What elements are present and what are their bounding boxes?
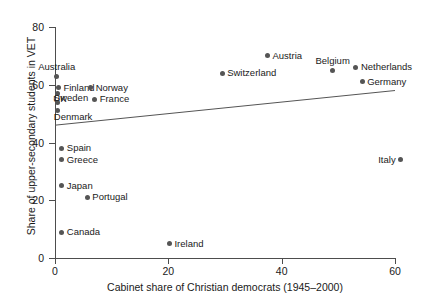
x-tick-label-40: 40 xyxy=(262,266,302,277)
y-tick-40 xyxy=(49,143,55,144)
y-tick-20 xyxy=(49,200,55,201)
point-label-italy: Italy xyxy=(378,155,395,165)
x-tick-label-0: 0 xyxy=(35,266,75,277)
data-point-portugal xyxy=(85,195,90,200)
point-label-germany: Germany xyxy=(367,77,406,87)
data-point-canada xyxy=(59,230,64,235)
point-label-netherlands: Netherlands xyxy=(361,62,412,72)
point-label-sweden: Sweden xyxy=(54,93,88,103)
data-point-ireland xyxy=(167,241,172,246)
y-tick-label-20: 20 xyxy=(22,195,44,205)
point-label-greece: Greece xyxy=(67,155,98,165)
y-tick-label-40: 40 xyxy=(22,138,44,148)
point-label-switzerland: Switzerland xyxy=(227,68,276,78)
x-tick-20 xyxy=(168,258,169,264)
point-label-france: France xyxy=(100,94,130,104)
point-label-ireland: Ireland xyxy=(174,239,203,249)
x-tick-0 xyxy=(55,258,56,264)
plot-area: Share of upper-secondary students in VET… xyxy=(0,0,427,306)
point-label-portugal: Portugal xyxy=(92,192,127,202)
point-label-norway: Norway xyxy=(96,83,128,93)
y-tick-label-80: 80 xyxy=(22,22,44,32)
y-tick-label-60: 60 xyxy=(22,80,44,90)
point-label-austria: Austria xyxy=(273,51,303,61)
point-label-japan: Japan xyxy=(67,181,93,191)
scatter-plot-figure: Share of upper-secondary students in VET… xyxy=(0,0,427,306)
data-point-belgium xyxy=(330,68,335,73)
data-point-france xyxy=(92,97,97,102)
point-label-australia: Australia xyxy=(38,62,75,72)
point-label-denmark: Denmark xyxy=(54,112,93,122)
x-tick-40 xyxy=(282,258,283,264)
data-point-switzerland xyxy=(220,71,225,76)
data-point-australia xyxy=(54,74,59,79)
x-tick-label-20: 20 xyxy=(148,266,188,277)
x-tick-60 xyxy=(395,258,396,264)
y-tick-label-0: 0 xyxy=(22,253,44,263)
x-tick-label-60: 60 xyxy=(375,266,415,277)
point-label-belgium: Belgium xyxy=(315,56,349,66)
y-tick-80 xyxy=(49,27,55,28)
data-point-finland xyxy=(56,85,61,90)
point-label-canada: Canada xyxy=(67,227,100,237)
y-tick-60 xyxy=(49,85,55,86)
regression-line xyxy=(0,0,427,306)
point-label-spain: Spain xyxy=(67,143,91,153)
